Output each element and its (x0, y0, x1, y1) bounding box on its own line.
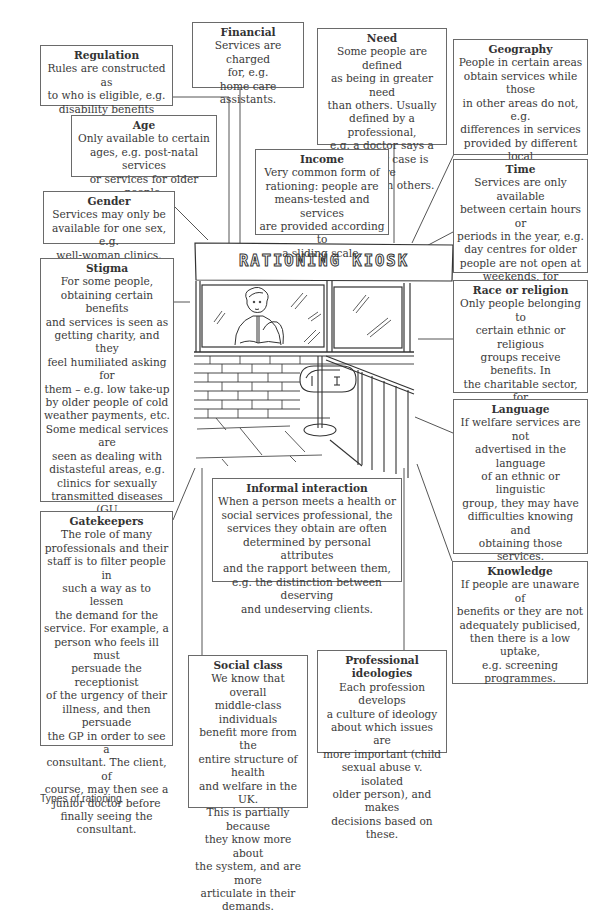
brick-wall (194, 356, 414, 418)
box-race-religion: Race or religion Only people belonging t… (453, 280, 588, 393)
box-text: Services are only available between cert… (457, 176, 584, 297)
box-title: Race or religion (457, 284, 584, 297)
box-social-class: Social class We know that overall middle… (188, 655, 308, 808)
connector-gender (174, 206, 208, 240)
box-language: Language If welfare services are not adv… (453, 399, 588, 554)
connector-language (415, 417, 453, 433)
box-title: Geography (457, 43, 584, 56)
box-title: Income (259, 153, 385, 166)
box-informal-interaction: Informal interaction When a person meets… (212, 478, 402, 582)
box-text: The role of many professionals and their… (44, 528, 169, 836)
box-need: Need Some people are defined as being in… (317, 28, 447, 145)
clerk-figure (235, 287, 283, 345)
box-time: Time Services are only available between… (453, 159, 588, 273)
box-title: Financial (196, 26, 300, 39)
box-title: Social class (192, 659, 304, 672)
box-text: When a person meets a health or social s… (216, 495, 398, 616)
box-gender: Gender Services may only be available fo… (43, 191, 175, 244)
box-age: Age Only available to certain ages, e.g.… (71, 115, 217, 177)
box-title: Informal interaction (216, 482, 398, 495)
box-text: Only available to certain ages, e.g. pos… (75, 132, 213, 199)
box-title: Need (321, 32, 443, 45)
box-regulation: Regulation Rules are constructed as to w… (40, 45, 173, 106)
box-title: Gender (47, 195, 171, 208)
box-text: Rules are constructed as to who is eligi… (44, 62, 169, 116)
box-text: Services are charged for, e.g. home care… (196, 39, 300, 106)
box-income: Income Very common form of rationing: pe… (255, 149, 389, 235)
box-title: Knowledge (456, 565, 584, 578)
box-financial: Financial Services are charged for, e.g.… (192, 22, 304, 88)
box-gatekeepers: Gatekeepers The role of many professiona… (40, 511, 173, 746)
box-geography: Geography People in certain areas obtain… (453, 39, 588, 155)
box-text: Services may only be available for one s… (47, 208, 171, 262)
box-stigma: Stigma For some people, obtaining certai… (40, 258, 174, 502)
box-text: Each profession develops a culture of id… (321, 681, 443, 842)
box-title: Regulation (44, 49, 169, 62)
box-text: Very common form of rationing: people ar… (259, 166, 385, 260)
box-title: Professional ideologies (321, 654, 443, 681)
stair-railing (326, 356, 414, 478)
box-knowledge: Knowledge If people are unaware of benef… (452, 561, 588, 684)
box-text: We know that overall middle-class indivi… (192, 672, 304, 913)
pavement (196, 418, 322, 466)
box-title: Stigma (44, 262, 170, 275)
figure-caption: Types of rationing (40, 792, 122, 804)
box-text: If people are unaware of benefits or the… (456, 578, 584, 685)
connector-knowledge (417, 464, 452, 561)
connector-gatekeepers (173, 468, 195, 520)
box-professional-ideologies: Professional ideologies Each profession … (317, 650, 447, 753)
box-title: Time (457, 163, 584, 176)
box-title: Language (457, 403, 584, 416)
box-title: Gatekeepers (44, 515, 169, 528)
box-title: Age (75, 119, 213, 132)
